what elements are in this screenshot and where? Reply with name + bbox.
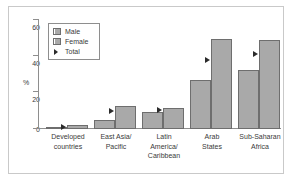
legend-swatch-female-icon (53, 38, 61, 45)
bar-male-east-asia-pacific[interactable] (94, 120, 115, 129)
total-marker-sub-saharan-africa (253, 51, 258, 57)
legend-item-total[interactable]: Total (53, 47, 95, 56)
legend-swatch-male-icon (53, 28, 61, 35)
bar-female-east-asia-pacific[interactable] (115, 106, 136, 129)
legend-item-male[interactable]: Male (53, 27, 95, 36)
y-axis-label-0: 0 (15, 126, 40, 133)
bar-female-arab-states[interactable] (211, 39, 232, 129)
total-marker-arab-states (205, 57, 210, 63)
legend-label-total: Total (65, 48, 80, 56)
total-marker-east-asia-pacific (109, 108, 114, 114)
legend-label-male: Male (65, 28, 80, 36)
x-axis-label-sub-saharan-africa: Sub-SaharanAfrica (230, 132, 290, 151)
legend-item-female[interactable]: Female (53, 37, 95, 46)
total-marker-latin-america-caribbean (157, 107, 162, 113)
bar-female-latin-america-caribbean[interactable] (163, 108, 184, 129)
total-marker-developed-countries (61, 124, 66, 130)
y-axis-label-20: 20 (15, 96, 40, 103)
legend-triangle-right-icon (53, 48, 61, 55)
bar-female-sub-saharan-africa[interactable] (259, 40, 280, 129)
bar-male-arab-states[interactable] (190, 80, 211, 130)
bar-male-sub-saharan-africa[interactable] (238, 70, 259, 129)
y-axis-label-60: 60 (15, 24, 40, 31)
bar-male-latin-america-caribbean[interactable] (142, 112, 163, 129)
y-axis-label-40: 40 (15, 60, 40, 67)
y-axis-title: % (23, 79, 29, 86)
legend-label-female: Female (65, 38, 88, 46)
bar-female-developed-countries[interactable] (67, 125, 88, 129)
chart-legend: Male Female Total (48, 23, 100, 60)
